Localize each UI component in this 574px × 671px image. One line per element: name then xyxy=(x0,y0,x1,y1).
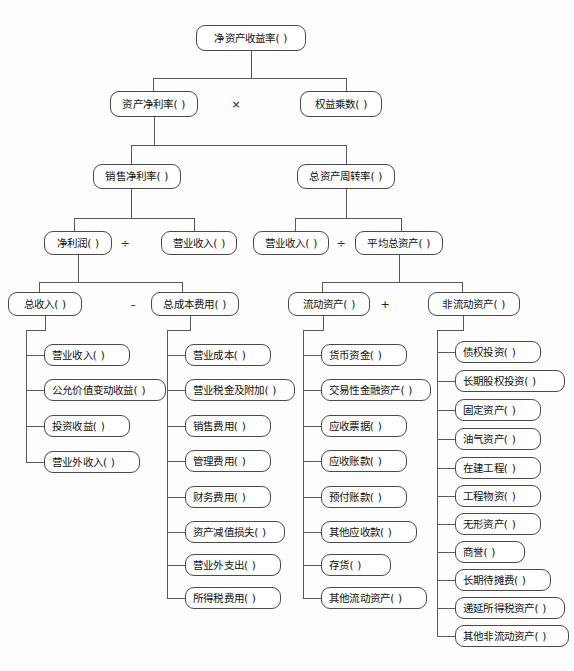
leaf-non-operating-expense[interactable]: 营业外支出( ) xyxy=(185,554,281,576)
node-current-assets[interactable]: 流动资产( ) xyxy=(288,292,370,316)
connector-level5-c-drop xyxy=(322,282,323,292)
node-equity-multiplier[interactable]: 权益乘数( ) xyxy=(300,91,382,117)
node-operating-revenue-left[interactable]: 营业收入( ) xyxy=(161,231,237,255)
node-total-cost[interactable]: 总成本费用( ) xyxy=(151,292,239,316)
leaf-construction-materials[interactable]: 工程物资( ) xyxy=(455,485,541,507)
leaf-selling-expense[interactable]: 销售费用( ) xyxy=(185,415,271,437)
operator-divide-assets: ÷ xyxy=(334,238,348,249)
spine-cost-branch-1 xyxy=(167,355,185,356)
spine-current-branch-7 xyxy=(303,565,321,566)
leaf-operating-tax-surcharge[interactable]: 营业税金及附加( ) xyxy=(185,379,295,401)
spine-current-branch-1 xyxy=(303,355,321,356)
leaf-administrative-expense[interactable]: 管理费用( ) xyxy=(185,450,271,472)
connector-level2-left-drop xyxy=(153,78,154,91)
spine-cost-branch-7 xyxy=(167,565,185,566)
leaf-construction-in-progress[interactable]: 在建工程( ) xyxy=(455,457,541,479)
spine-income-branch-4 xyxy=(26,462,44,463)
spine-income-vertical xyxy=(26,330,27,462)
connector-level2-bus xyxy=(153,78,346,79)
leaf-other-current-assets[interactable]: 其他流动资产( ) xyxy=(321,587,427,609)
spine-current-branch-2 xyxy=(303,390,321,391)
spine-noncurrent-branch-4 xyxy=(437,439,455,440)
operator-plus: + xyxy=(378,299,392,310)
operator-multiply: × xyxy=(229,99,243,110)
spine-noncurrent-stub-down xyxy=(463,316,464,330)
spine-income-stub-down xyxy=(45,316,46,330)
node-return-on-equity[interactable]: 净资产收益率( ) xyxy=(196,25,306,51)
spine-noncurrent-vertical xyxy=(437,330,438,636)
leaf-trading-financial-assets[interactable]: 交易性金融资产( ) xyxy=(321,379,431,401)
connector-tat-down xyxy=(346,189,347,218)
connector-level3-bus xyxy=(131,145,346,146)
leaf-cash-and-equivalents[interactable]: 货币资金( ) xyxy=(321,344,407,366)
connector-level2-right-drop xyxy=(346,78,347,91)
connector-level3-left-drop xyxy=(131,145,132,164)
leaf-income-tax-expense[interactable]: 所得税费用( ) xyxy=(185,587,281,609)
connector-level5-left-bus xyxy=(39,282,182,283)
leaf-non-operating-income[interactable]: 营业外收入( ) xyxy=(44,451,140,473)
connector-level5-a-drop xyxy=(39,282,40,292)
connector-level4-a-drop xyxy=(74,218,75,231)
leaf-other-receivables[interactable]: 其他应收款( ) xyxy=(321,521,417,543)
spine-income-branch-2 xyxy=(26,390,44,391)
spine-current-branch-3 xyxy=(303,426,321,427)
leaf-other-noncurrent-assets[interactable]: 其他非流动资产( ) xyxy=(455,625,569,647)
spine-income-branch-3 xyxy=(26,426,44,427)
connector-level5-b-drop xyxy=(182,282,183,292)
spine-cost-branch-5 xyxy=(167,497,185,498)
node-total-asset-turnover[interactable]: 总资产周转率( ) xyxy=(297,164,395,189)
spine-noncurrent-branch-8 xyxy=(437,552,455,553)
connector-level5-right-bus xyxy=(322,282,462,283)
spine-noncurrent-branch-1 xyxy=(437,352,455,353)
connector-level5-d-drop xyxy=(462,282,463,292)
leaf-accounts-receivable[interactable]: 应收账款( ) xyxy=(321,450,407,472)
connector-root-down xyxy=(251,51,252,78)
spine-cost-stub-left xyxy=(167,330,191,331)
connector-roa-down xyxy=(154,117,155,145)
spine-noncurrent-branch-5 xyxy=(437,468,455,469)
connector-level4-right-bus xyxy=(295,218,401,219)
node-net-profit[interactable]: 净利润( ) xyxy=(44,231,112,255)
leaf-fixed-assets[interactable]: 固定资产( ) xyxy=(455,399,541,421)
spine-noncurrent-branch-7 xyxy=(437,524,455,525)
leaf-long-term-deferred-expense[interactable]: 长期待摊费( ) xyxy=(455,569,551,591)
node-noncurrent-assets[interactable]: 非流动资产( ) xyxy=(428,292,520,316)
spine-current-branch-4 xyxy=(303,461,321,462)
leaf-operating-cost[interactable]: 营业成本( ) xyxy=(185,344,271,366)
leaf-debt-investment[interactable]: 债权投资( ) xyxy=(455,341,541,363)
node-total-income[interactable]: 总收入( ) xyxy=(8,292,82,316)
leaf-long-term-equity-investment[interactable]: 长期股权投资( ) xyxy=(455,370,565,392)
spine-cost-branch-8 xyxy=(167,598,185,599)
spine-cost-stub-down xyxy=(190,316,191,330)
leaf-notes-receivable[interactable]: 应收票据( ) xyxy=(321,415,407,437)
operator-minus: – xyxy=(126,299,140,310)
operator-divide-profit: ÷ xyxy=(118,238,132,249)
node-operating-revenue-right[interactable]: 营业收入( ) xyxy=(253,231,329,255)
node-average-total-assets[interactable]: 平均总资产( ) xyxy=(355,231,443,255)
leaf-inventory[interactable]: 存货( ) xyxy=(321,554,391,576)
leaf-intangible-assets[interactable]: 无形资产( ) xyxy=(455,513,541,535)
spine-cost-vertical xyxy=(167,330,168,598)
leaf-goodwill[interactable]: 商誉( ) xyxy=(455,541,525,563)
spine-current-vertical xyxy=(303,330,304,598)
spine-income-stub-left xyxy=(26,330,46,331)
leaf-fair-value-change-gain[interactable]: 公允价值变动收益( ) xyxy=(44,379,166,401)
connector-avgassets-down xyxy=(399,255,400,282)
spine-noncurrent-branch-10 xyxy=(437,608,455,609)
spine-noncurrent-branch-2 xyxy=(437,381,455,382)
spine-noncurrent-branch-3 xyxy=(437,410,455,411)
node-net-profit-margin[interactable]: 销售净利率( ) xyxy=(93,164,181,189)
leaf-operating-revenue[interactable]: 营业收入( ) xyxy=(44,344,130,366)
leaf-investment-income[interactable]: 投资收益( ) xyxy=(44,415,130,437)
dupont-analysis-diagram: 净资产收益率( ) 资产净利率( ) × 权益乘数( ) 销售净利率( ) 总资… xyxy=(0,0,574,671)
leaf-asset-impairment-loss[interactable]: 资产减值损失( ) xyxy=(185,521,285,543)
spine-cost-branch-3 xyxy=(167,426,185,427)
leaf-financial-expense[interactable]: 财务费用( ) xyxy=(185,486,271,508)
spine-cost-branch-6 xyxy=(167,532,185,533)
spine-current-stub-left xyxy=(303,330,324,331)
leaf-prepayments[interactable]: 预付账款( ) xyxy=(321,486,407,508)
node-return-on-assets[interactable]: 资产净利率( ) xyxy=(110,91,198,117)
leaf-deferred-tax-assets[interactable]: 递延所得税资产( ) xyxy=(455,597,565,619)
connector-netprofit-down xyxy=(78,255,79,282)
leaf-oil-and-gas-assets[interactable]: 油气资产( ) xyxy=(455,428,541,450)
